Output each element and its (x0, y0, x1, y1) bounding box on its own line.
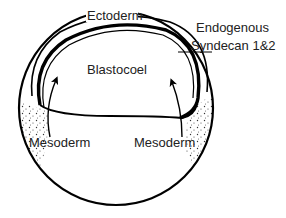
mesoderm-right-label: Mesoderm (134, 135, 195, 150)
arrow-right-migration (172, 82, 182, 137)
syndecan-label-line2: Syndecan 1&2 (191, 38, 276, 53)
blastocoel-label: Blastocoel (87, 62, 147, 77)
mesoderm-regions (18, 92, 214, 172)
blastocoel-floor (40, 104, 197, 118)
mesoderm-left-label: Mesoderm (29, 135, 90, 150)
ectoderm-label: Ectoderm (87, 8, 143, 23)
syndecan-label-line1: Endogenous (196, 20, 270, 35)
embryo-diagram: Ectoderm Blastocoel Endogenous Syndecan … (0, 0, 286, 218)
ectoderm-outer-arc (32, 16, 208, 96)
